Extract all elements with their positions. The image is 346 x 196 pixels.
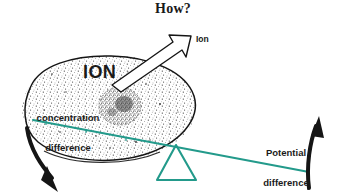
concentration-difference-label: concentration difference [36, 93, 100, 173]
nucleus [99, 87, 141, 125]
page-title: How? [0, 2, 346, 17]
concentration-label-line1: concentration [36, 113, 100, 123]
figure-canvas: How? Ion ION concentration difference Po… [0, 0, 346, 196]
concentration-label-line2: difference [36, 143, 100, 153]
potential-force-arrow-icon [308, 116, 324, 192]
potential-difference-label: Potential difference [262, 128, 310, 196]
ion-inside-cell-label: ION [83, 63, 116, 82]
ion-arrow-label: Ion [196, 35, 209, 44]
potential-label-line1: Potential [262, 148, 310, 158]
potential-label-line2: difference [262, 178, 310, 188]
